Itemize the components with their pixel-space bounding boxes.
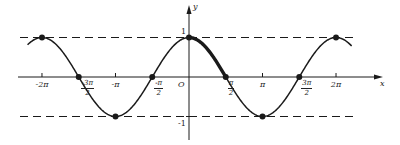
y-axis-label: y bbox=[193, 3, 198, 11]
x-tick-label-fraction: 3π2 bbox=[301, 80, 312, 97]
fraction-numerator: -3π bbox=[81, 80, 94, 89]
y-axis-arrow-icon bbox=[187, 5, 192, 14]
data-point bbox=[39, 35, 45, 41]
x-tick-label-fraction: -3π2 bbox=[81, 80, 94, 97]
y-tick-label-neg1: -1 bbox=[178, 120, 186, 128]
x-tick-label: π bbox=[260, 81, 265, 89]
data-point bbox=[112, 114, 118, 120]
x-tick-label-fraction: π2 bbox=[228, 80, 235, 97]
fraction-numerator: -π bbox=[154, 80, 163, 89]
x-tick-label-fraction: -π2 bbox=[154, 80, 163, 97]
x-tick-label: 2π bbox=[331, 81, 341, 89]
x-tick-label: -π bbox=[112, 81, 120, 89]
y-tick-label-1: 1 bbox=[181, 28, 186, 36]
x-tick-label: -2π bbox=[35, 81, 48, 89]
fraction-denominator: 2 bbox=[228, 89, 235, 97]
x-axis-label: x bbox=[380, 80, 385, 88]
origin-label: O bbox=[178, 81, 185, 89]
fraction-numerator: 3π bbox=[301, 80, 312, 89]
fraction-denominator: 2 bbox=[154, 89, 163, 97]
fraction-numerator: π bbox=[228, 80, 235, 89]
data-point bbox=[333, 35, 339, 41]
data-point bbox=[260, 114, 266, 120]
fraction-denominator: 2 bbox=[301, 89, 312, 97]
cosine-plot bbox=[0, 0, 400, 145]
highlighted-segment bbox=[189, 38, 226, 78]
data-point bbox=[186, 35, 192, 41]
fraction-denominator: 2 bbox=[81, 89, 94, 97]
axes bbox=[18, 5, 383, 140]
